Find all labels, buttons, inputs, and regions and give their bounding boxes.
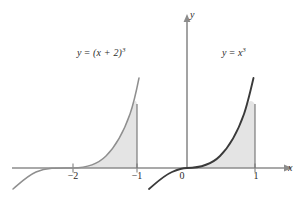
curve-label-right: y = x3 [222, 46, 246, 58]
tick-label-neg-one: −1 [127, 170, 147, 181]
curve-label-left: y = (x + 2)3 [77, 46, 126, 58]
tick-label-one: 1 [246, 170, 266, 181]
curve-label-right-exponent: 3 [243, 46, 246, 53]
curve-label-left-eq: = [82, 47, 93, 58]
curve-label-left-body: (x + 2) [93, 47, 122, 58]
figure-canvas: y = (x + 2)3 y = x3 x y −2 −1 0 1 [0, 0, 303, 199]
curve-label-left-exponent: 3 [122, 46, 125, 53]
y-axis-label: y [190, 9, 194, 20]
x-axis-label: x [288, 162, 292, 173]
curve-label-right-eq: = [227, 47, 238, 58]
tick-label-neg-two: −2 [63, 170, 83, 181]
tick-label-zero: 0 [172, 170, 192, 181]
